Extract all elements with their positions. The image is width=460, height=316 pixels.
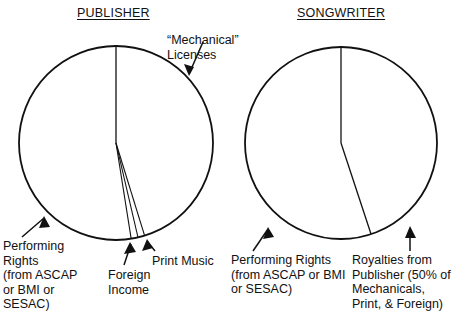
- label-foreign-income: Foreign Income: [108, 268, 150, 297]
- arrowhead-publisher-performing-rights-icon: [39, 216, 50, 228]
- chart-title-songwriter: SONGWRITER: [297, 6, 385, 20]
- chart-title-publisher: PUBLISHER: [77, 6, 150, 20]
- songwriter-pie: [245, 47, 437, 239]
- arrowhead-foreign-income-icon: [124, 242, 136, 254]
- publisher-pie: [19, 46, 213, 240]
- label-print-music: Print Music: [152, 254, 214, 269]
- label-mechanical-licenses: “Mechanical” Licenses: [167, 33, 239, 62]
- label-publisher-performing-rights: Performing Rights (from ASCAP or BMI or …: [3, 239, 77, 312]
- label-songwriter-performing-rights: Performing Rights (from ASCAP or BMI or …: [231, 253, 345, 297]
- leader-line-songwriter-performing-rights: [253, 229, 268, 251]
- arrowhead-royalties-icon: [405, 226, 416, 238]
- arrowhead-print-music-icon: [142, 239, 153, 251]
- figure-canvas: PUBLISHER SONGWRITER “Mechanical” Licens…: [0, 0, 460, 316]
- label-royalties-from-publisher: Royalties from Publisher (50% of Mechani…: [352, 253, 451, 311]
